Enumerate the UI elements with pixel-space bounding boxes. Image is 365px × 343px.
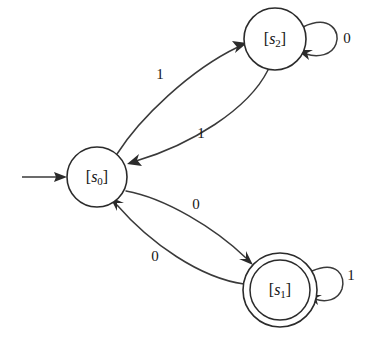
transition-s0-to-s2-path: [117, 47, 238, 154]
state-s1-bracket-close: ]: [286, 281, 291, 298]
transition-s1-to-s0-path: [117, 205, 244, 284]
state-s0-label: [s0]: [86, 168, 108, 187]
transition-s0-to-s1-path: [126, 191, 246, 258]
transition-s2-to-s0-path: [136, 70, 268, 161]
transition-s0-to-s1: 0: [126, 191, 253, 265]
state-s0-bracket-close: ]: [103, 168, 108, 185]
state-s2-label: [s2]: [264, 30, 286, 49]
state-s1-label: [s1]: [269, 281, 291, 300]
state-s2-bracket-close: ]: [281, 30, 286, 47]
start-arrow: [22, 172, 67, 182]
state-node-s2[interactable]: [s2]: [244, 8, 306, 70]
state-node-s1[interactable]: [s1]: [243, 253, 317, 327]
transition-s0-to-s2: 1: [117, 41, 247, 154]
state-machine-canvas: 1 1 0 0 0 1: [0, 0, 365, 343]
transition-s1-to-s0-label: 0: [151, 248, 159, 264]
transition-s0-to-s1-label: 0: [192, 196, 200, 212]
self-loop-s2-label: 0: [343, 30, 351, 46]
transition-s2-to-s0-label: 1: [197, 125, 205, 141]
self-loop-s1-label: 1: [347, 267, 355, 283]
transition-s2-to-s0: 1: [127, 70, 268, 166]
state-node-s0[interactable]: [s0]: [67, 147, 127, 207]
transition-s0-to-s2-label: 1: [156, 66, 164, 82]
state-machine-diagram: 1 1 0 0 0 1: [0, 0, 365, 343]
